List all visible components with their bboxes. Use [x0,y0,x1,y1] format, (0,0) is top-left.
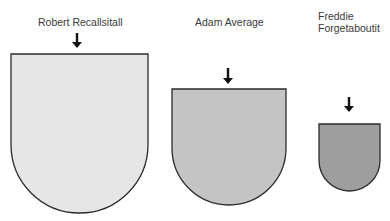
down-arrow-icon [344,97,354,112]
down-arrow-icon [72,33,82,48]
shield-shape-small [319,124,380,191]
shield-shape-medium [172,89,286,205]
down-arrow-icon [223,68,233,84]
diagram-canvas [0,0,390,221]
shield-shape-large [11,54,148,213]
